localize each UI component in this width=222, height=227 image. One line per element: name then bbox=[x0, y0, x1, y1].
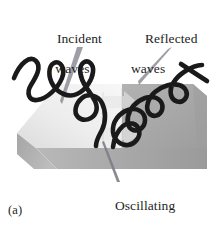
label-incident-line1: Incident bbox=[57, 31, 102, 46]
label-incident-line2: waves bbox=[43, 61, 102, 76]
label-oscillating-electrons: Oscillating electrons bbox=[101, 183, 175, 227]
label-reflected-line2: waves bbox=[131, 61, 198, 76]
label-reflected-line1: Reflected bbox=[145, 31, 198, 46]
label-oscillating-line1: Oscillating bbox=[115, 198, 175, 213]
slab-front-face bbox=[36, 148, 207, 169]
label-reflected-waves: Reflected waves bbox=[131, 16, 198, 106]
label-incident-waves: Incident waves bbox=[43, 16, 102, 106]
figure-panel-label: (a) bbox=[8, 203, 22, 218]
figure-panel: Incident waves Reflected waves Oscillati… bbox=[0, 0, 222, 227]
